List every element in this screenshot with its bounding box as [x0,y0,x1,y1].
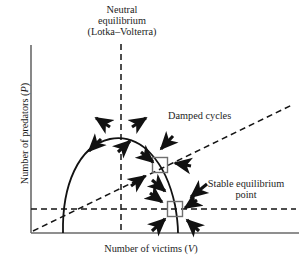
stable-equilibrium-line1: Stable equilibrium [196,178,296,189]
x-axis-label: Number of victims (V) [60,243,242,254]
neutral-equilibrium-label: Neutral equilibrium (Lotka–Volterra) [50,4,194,37]
y-axis-label: Number of predators (P) [19,49,30,219]
neutral-equilibrium-line3: (Lotka–Volterra) [50,26,194,37]
x-axis-label-close: ) [194,243,197,254]
predator-prey-phase-diagram [0,0,300,263]
stable-equilibrium-label: Stable equilibrium point [196,178,296,200]
x-axis-label-text: Number of victims ( [104,243,188,254]
y-axis-symbol: P [19,86,30,92]
neutral-equilibrium-line2: equilibrium [50,15,194,26]
y-axis-label-text: Number of predators ( [19,92,30,184]
y-axis-label-close: ) [19,83,30,86]
neutral-equilibrium-line1: Neutral [50,4,194,15]
stable-equilibrium-line2: point [196,189,296,200]
figure-background [0,0,300,263]
damped-cycles-label: Damped cycles [168,110,272,121]
